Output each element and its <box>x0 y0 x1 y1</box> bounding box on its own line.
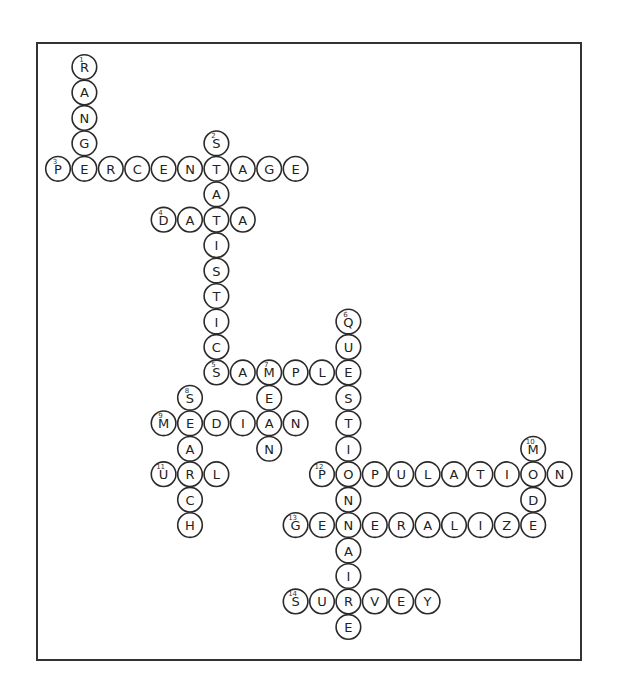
cell-letter: T <box>211 289 220 304</box>
letter-cell: T <box>468 462 493 487</box>
letter-cell: T <box>204 157 229 182</box>
cell-letter: P <box>371 467 379 482</box>
cell-letter: A <box>80 85 89 100</box>
letter-cell: E <box>389 589 414 614</box>
cell-letter: O <box>343 467 353 482</box>
letter-cell: R <box>99 157 124 182</box>
cell-letter: R <box>397 518 406 533</box>
letter-cell: A <box>415 513 440 538</box>
letter-cell: G13 <box>283 513 308 538</box>
cell-letter: A <box>186 213 195 228</box>
letter-cell: P3 <box>46 157 71 182</box>
cell-letter: N <box>344 493 354 508</box>
cell-letter: T <box>211 213 220 228</box>
cell-letter: I <box>241 416 245 431</box>
letter-cell: N <box>547 462 572 487</box>
cell-letter: S <box>344 391 352 406</box>
letter-cell: R <box>178 462 203 487</box>
cell-letter: I <box>478 518 482 533</box>
letter-cell: L <box>442 513 467 538</box>
letter-cell: I <box>336 564 361 589</box>
letter-cell: N <box>336 513 361 538</box>
letter-cell: U <box>389 462 414 487</box>
cell-letter: N <box>291 416 301 431</box>
letter-cell: U <box>310 589 335 614</box>
cell-letter: A <box>238 213 247 228</box>
clue-number: 11 <box>156 463 165 471</box>
cell-letter: Z <box>502 518 511 533</box>
clue-number: 13 <box>288 514 297 522</box>
letter-cell: A <box>231 207 256 232</box>
cell-letter: R <box>185 467 194 482</box>
letter-cell: D <box>521 487 546 512</box>
letter-cell: E <box>336 360 361 385</box>
letter-cell: A <box>178 436 203 461</box>
cell-letter: U <box>396 467 406 482</box>
letter-cell: H <box>178 513 203 538</box>
letter-cell: C <box>204 335 229 360</box>
cell-letter: A <box>423 518 432 533</box>
cell-letter: I <box>505 467 509 482</box>
letter-cell: D4 <box>151 207 176 232</box>
letter-cell: D <box>204 411 229 436</box>
cell-letter: I <box>214 238 218 253</box>
letter-cell: S <box>336 386 361 411</box>
letter-cell: E <box>310 513 335 538</box>
cell-letter: R <box>344 594 353 609</box>
cell-letter: T <box>211 162 220 177</box>
cell-letter: E <box>159 162 167 177</box>
letter-cell: E <box>336 615 361 640</box>
letter-cell: M7 <box>257 360 282 385</box>
letter-cell: C <box>178 487 203 512</box>
letter-cell: G <box>72 131 97 156</box>
clue-number: 9 <box>158 412 162 420</box>
clue-number: 2 <box>211 132 215 140</box>
letter-cell: A <box>336 538 361 563</box>
letter-cell: C <box>125 157 150 182</box>
cell-letter: R <box>106 162 115 177</box>
letter-cell: N <box>283 411 308 436</box>
clue-number: 4 <box>158 209 163 217</box>
letter-cell: T <box>204 207 229 232</box>
cell-letter: G <box>79 136 89 151</box>
cell-letter: E <box>318 518 326 533</box>
letter-cell: R1 <box>72 55 97 80</box>
cell-letter: I <box>346 442 350 457</box>
letter-cell: P <box>283 360 308 385</box>
letter-cell: O <box>521 462 546 487</box>
letter-cell: L <box>415 462 440 487</box>
cell-letter: D <box>211 416 221 431</box>
cell-letter: A <box>265 416 274 431</box>
cell-letter: A <box>186 442 195 457</box>
cell-letter: E <box>344 620 352 635</box>
letter-cell: A <box>72 80 97 105</box>
letter-cell: I <box>204 309 229 334</box>
cell-letter: C <box>133 162 142 177</box>
cell-letter: L <box>450 518 458 533</box>
letter-cell: L <box>310 360 335 385</box>
letter-cell: L <box>204 462 229 487</box>
cell-letter: A <box>212 187 221 202</box>
cell-letter: L <box>213 467 221 482</box>
clue-number: 6 <box>343 311 348 319</box>
clue-number: 10 <box>526 438 535 446</box>
letter-cell: E <box>178 411 203 436</box>
letter-cell: N <box>178 157 203 182</box>
letter-cell: R <box>389 513 414 538</box>
cell-letter: E <box>529 518 537 533</box>
cell-letter: E <box>344 365 352 380</box>
clue-number: 1 <box>79 56 83 64</box>
letter-cell: O <box>336 462 361 487</box>
letter-cell: V <box>363 589 388 614</box>
letter-cell: I <box>204 233 229 258</box>
cell-letter: E <box>265 391 273 406</box>
letter-cell: I <box>495 462 520 487</box>
cell-letter: A <box>344 544 353 559</box>
letter-cell: G <box>257 157 282 182</box>
clue-number: 5 <box>211 361 215 369</box>
cell-letter: N <box>185 162 195 177</box>
cell-letter: L <box>424 467 432 482</box>
letter-cell: E <box>283 157 308 182</box>
letter-cell: E <box>151 157 176 182</box>
letter-cell: E <box>72 157 97 182</box>
